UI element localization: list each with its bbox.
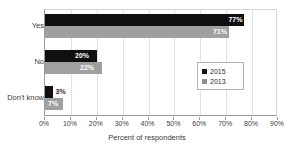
- legend-item-2015: 2015: [202, 66, 239, 76]
- bar-no-2015: [45, 50, 97, 62]
- legend: 2015 2013: [197, 62, 244, 90]
- category-label-dont-know: Don't know: [7, 93, 44, 102]
- bar-yes-2015: [45, 14, 244, 26]
- bar-value-no-2013: 22%: [80, 62, 94, 74]
- bar-row-yes-2015: 77%: [45, 14, 277, 26]
- legend-item-2013: 2013: [202, 76, 239, 86]
- legend-swatch-icon-2015: [202, 69, 207, 74]
- plot-frame-top: [45, 9, 277, 10]
- bar-value-dont-know-2015: 3%: [56, 86, 66, 98]
- legend-swatch-icon-2013: [202, 79, 207, 84]
- bar-row-yes-2013: 71%: [45, 26, 277, 38]
- x-axis-title: Percent of respondents: [0, 133, 294, 142]
- bar-row-no-2015: 20%: [45, 50, 277, 62]
- bar-value-no-2015: 20%: [75, 50, 89, 62]
- bar-dont-know-2015: [45, 86, 53, 98]
- xtick-label-90: 90%: [262, 120, 292, 127]
- bar-yes-2013: [45, 26, 229, 38]
- bar-value-yes-2013: 71%: [213, 26, 227, 38]
- category-label-no: No: [34, 57, 44, 66]
- bar-value-yes-2015: 77%: [228, 14, 242, 26]
- legend-label-2015: 2015: [210, 68, 226, 75]
- bar-chart: Yes No Don't know 77% 71%: [0, 0, 294, 148]
- category-label-yes: Yes: [32, 21, 44, 30]
- bar-value-dont-know-2013: 7%: [48, 98, 58, 110]
- legend-label-2013: 2013: [210, 78, 226, 85]
- bar-group-yes: 77% 71%: [45, 14, 277, 38]
- bar-row-dont-know-2013: 7%: [45, 98, 277, 110]
